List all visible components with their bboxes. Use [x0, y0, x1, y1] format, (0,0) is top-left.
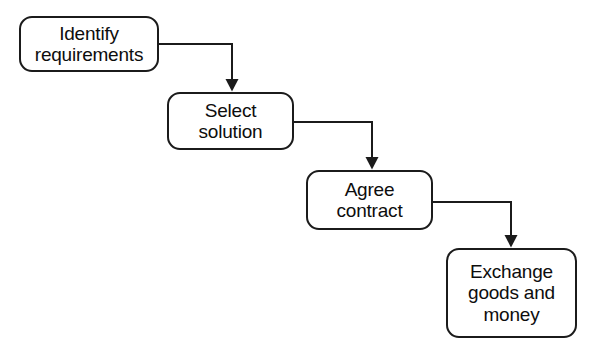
flow-node-agree-contract[interactable]: Agree contract	[306, 170, 433, 230]
flow-node-exchange-goods-and-money[interactable]: Exchange goods and money	[446, 248, 577, 338]
connector-agree-to-exchange	[433, 202, 518, 248]
flow-node-identify-requirements[interactable]: Identify requirements	[19, 16, 159, 72]
connector-identify-to-select	[159, 44, 239, 92]
flowchart-canvas: Identify requirements Select solution Ag…	[0, 0, 593, 351]
flow-node-select-solution[interactable]: Select solution	[167, 92, 294, 150]
flow-node-label: Select solution	[195, 100, 267, 143]
flow-node-label: Exchange goods and money	[464, 261, 559, 325]
connector-select-to-agree	[294, 122, 379, 170]
flow-node-label: Identify requirements	[31, 23, 147, 66]
flow-node-label: Agree contract	[333, 179, 407, 222]
